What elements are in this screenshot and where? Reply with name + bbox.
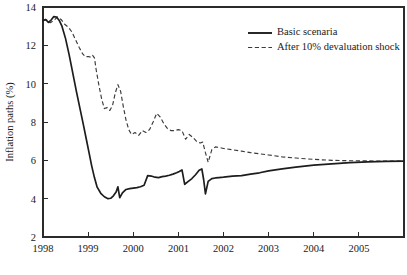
y-tick-label-8: 8 — [31, 117, 36, 128]
chart-legend: Basic scenaria After 10% devaluation sho… — [248, 26, 401, 52]
y-axis-ticks — [43, 7, 48, 237]
y-tick-label-2: 2 — [31, 232, 36, 243]
y-tick-label-4: 4 — [31, 194, 37, 205]
x-tick-label-2003: 2003 — [258, 243, 279, 254]
legend-label-devaluation-shock: After 10% devaluation shock — [277, 41, 401, 52]
y-tick-label-12: 12 — [26, 40, 37, 51]
chart-figure: 14 12 10 8 6 4 2 1998 1999 2000 2001 200… — [0, 0, 407, 275]
y-tick-label-6: 6 — [31, 155, 36, 166]
x-tick-label-2005: 2005 — [348, 243, 369, 254]
x-tick-label-1999: 1999 — [78, 243, 99, 254]
y-axis-tick-labels: 14 12 10 8 6 4 2 — [26, 2, 37, 243]
legend-label-basic-scenaria: Basic scenaria — [277, 26, 338, 37]
x-tick-label-2004: 2004 — [303, 243, 325, 254]
x-axis-ticks — [43, 232, 359, 237]
x-tick-label-1998: 1998 — [33, 243, 54, 254]
series-after-devaluation-shock — [43, 17, 404, 162]
inflation-paths-line-chart: 14 12 10 8 6 4 2 1998 1999 2000 2001 200… — [0, 0, 407, 275]
y-tick-label-14: 14 — [26, 2, 37, 13]
y-tick-label-10: 10 — [26, 79, 37, 90]
x-axis-tick-labels: 1998 1999 2000 2001 2002 2003 2004 2005 — [33, 243, 370, 254]
x-tick-label-2002: 2002 — [213, 243, 234, 254]
y-axis-title: Inflation paths (%) — [4, 82, 16, 162]
x-tick-label-2000: 2000 — [123, 243, 144, 254]
x-tick-label-2001: 2001 — [168, 243, 189, 254]
